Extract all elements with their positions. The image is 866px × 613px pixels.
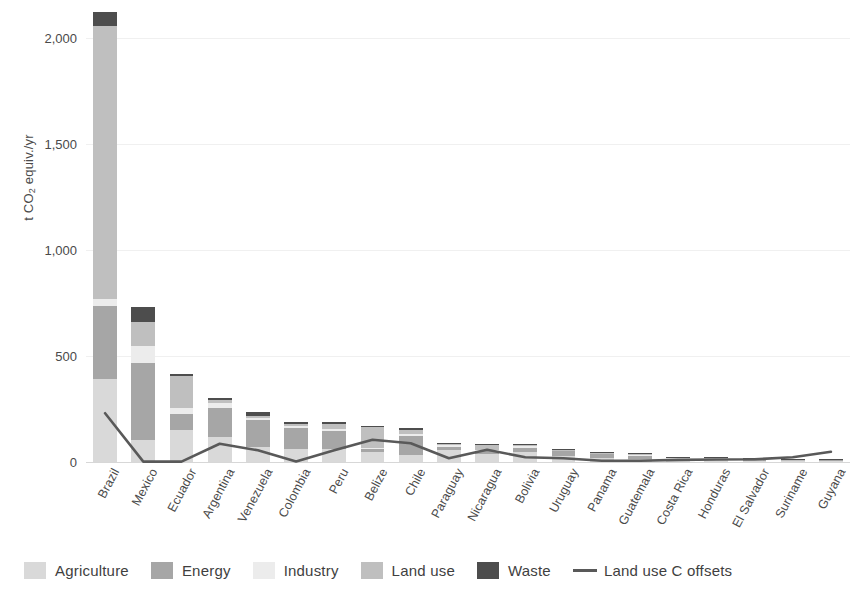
y-axis-title-pre: t CO [21, 193, 36, 221]
legend-label: Land use C offsets [604, 562, 732, 579]
x-axis-tick-label: Costa Rica [654, 466, 696, 527]
legend-label: Energy [182, 562, 231, 579]
legend-item-agriculture[interactable]: Agriculture [24, 562, 129, 579]
x-axis-tick-label: Suriname [772, 466, 810, 521]
legend-color-swatch [477, 562, 499, 579]
y-axis-tick-label: 500 [55, 348, 77, 363]
legend-item-land-use-c-offsets[interactable]: Land use C offsets [573, 562, 732, 579]
legend-color-swatch [361, 562, 383, 579]
x-axis-tick-label: Ecuador [164, 466, 199, 514]
x-axis-tick-label: Guyana [815, 466, 848, 512]
x-axis-tick-label: Colombia [276, 466, 314, 520]
legend-color-swatch [253, 562, 275, 579]
y-axis-tick-label: 2,000 [44, 30, 77, 45]
x-axis-tick-label: Guatemala [616, 466, 657, 527]
x-axis-tick-label: Nicaragua [465, 466, 505, 524]
legend-label: Land use [392, 562, 455, 579]
x-axis-tick-label: Uruguay [546, 466, 581, 515]
x-axis-tick-label: Honduras [695, 466, 733, 521]
x-axis-tick-label: Belize [361, 466, 390, 503]
x-axis-labels: BrazilMexicoEcuadorArgentinaVenezuelaCol… [86, 466, 850, 552]
x-axis-tick-label: El Salvador [729, 466, 772, 530]
legend-item-land-use[interactable]: Land use [361, 562, 455, 579]
x-axis-tick-label: Mexico [129, 466, 160, 508]
legend-color-swatch [24, 562, 46, 579]
y-axis-title: t CO2 equiv./yr [21, 98, 36, 258]
y-axis-title-post: equiv./yr [21, 134, 36, 188]
x-axis-tick-label: Venezuela [235, 466, 275, 525]
x-axis-tick-label: Panama [585, 466, 620, 514]
y-axis-tick-label: 1,500 [44, 136, 77, 151]
chart-figure: t CO2 equiv./yr 05001,0001,5002,000 Braz… [0, 0, 866, 613]
x-axis-tick-label: Argentina [199, 466, 237, 521]
legend-item-waste[interactable]: Waste [477, 562, 551, 579]
land-use-c-offsets-line [86, 6, 850, 462]
legend-item-industry[interactable]: Industry [253, 562, 339, 579]
legend-label: Industry [284, 562, 339, 579]
legend-line-swatch [573, 569, 597, 572]
y-axis-tick-label: 0 [70, 455, 77, 470]
x-axis-tick-label: Peru [327, 466, 352, 496]
legend-label: Waste [508, 562, 551, 579]
x-axis-tick-label: Brazil [95, 466, 122, 501]
x-axis-tick-label: Paraguay [428, 466, 466, 521]
legend-color-swatch [151, 562, 173, 579]
chart-legend: AgricultureEnergyIndustryLand useWasteLa… [24, 562, 754, 579]
plot-area: 05001,0001,5002,000 [86, 6, 850, 462]
x-axis-tick-label: Bolivia [513, 466, 543, 506]
y-axis-title-sub: 2 [27, 188, 37, 193]
legend-item-energy[interactable]: Energy [151, 562, 231, 579]
y-axis-tick-label: 1,000 [44, 242, 77, 257]
legend-label: Agriculture [55, 562, 129, 579]
x-axis-tick-label: Chile [402, 466, 428, 498]
